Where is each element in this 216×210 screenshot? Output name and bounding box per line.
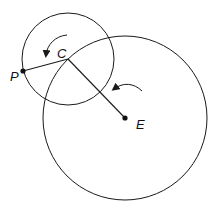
label-p: P <box>10 69 19 84</box>
label-e: E <box>136 117 145 132</box>
segment-c-e <box>68 59 125 118</box>
rotation-arrow-e-icon <box>114 84 142 91</box>
orbit-diagram: P C E <box>0 0 216 210</box>
point-e <box>122 115 127 120</box>
point-p <box>20 68 25 73</box>
label-c: C <box>57 46 67 61</box>
